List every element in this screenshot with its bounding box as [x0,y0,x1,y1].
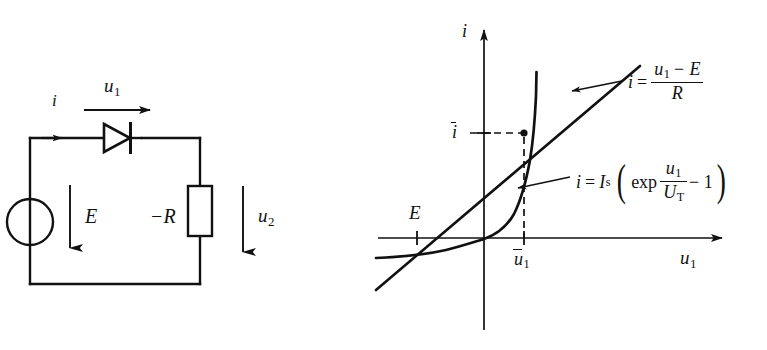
label-voltage-u2-sub: 2 [268,214,275,229]
label-resistor-minus-R: −R [150,206,176,226]
label-operating-point-u1bar: u1 [514,250,530,271]
label-operating-point-ibar-base: i [452,123,457,141]
label-operating-point-u1bar-base: u [514,250,523,268]
equation-diode-close-paren: ) [717,159,726,203]
equation-load-line: i = u1− E R [628,61,703,103]
label-axis-i: i [462,22,467,40]
resistor-symbol [188,186,212,236]
equation-load-line-eq: = [633,73,651,91]
equation-load-line-denominator: R [651,83,703,102]
equation-diode-num-sub: 1 [675,166,682,180]
equation-diode-denominator: UT [660,182,687,204]
label-operating-point-ibar: i [452,123,457,141]
label-operating-point-u1bar-sub: 1 [523,257,530,271]
label-axis-u1: u1 [680,248,696,271]
equation-load-line-num-rest: − E [670,59,701,79]
equation-load-line-num-sub: 1 [663,67,670,81]
equation-diode-eq: = [581,173,599,191]
equation-diode-open-paren: ( [614,159,626,203]
equation-diode-num-base: u [666,158,675,178]
label-voltage-u1: u1 [104,76,120,99]
equation-diode-numerator: u1 [660,159,687,182]
voltage-source-symbol [7,199,53,245]
label-axis-u1-base: u [680,247,690,268]
equation-diode-minus-one: − 1 [687,173,714,191]
label-voltage-u1-base: u [104,75,114,96]
equation-diode: i = Is ( exp u1 UT − 1 ) [576,160,728,204]
label-voltage-u2-base: u [258,205,268,226]
diode-triangle [104,124,130,152]
label-x-intercept-E: E [409,203,421,222]
equation-load-line-fraction: u1− E R [651,60,703,102]
equation-diode-exp-text: exp [630,173,660,191]
label-source-E: E [85,206,97,226]
equation-diode-den-base: U [663,182,676,202]
label-axis-u1-sub: 1 [690,256,697,271]
equation-load-line-numerator: u1− E [651,60,703,83]
circuit-diagram [7,110,243,284]
resistor-box [188,186,212,236]
label-voltage-u1-sub: 1 [114,84,121,99]
operating-point-marker [520,129,527,136]
equation-load-line-num-base: u [654,59,663,79]
equation-diode-fraction: u1 UT [660,159,687,203]
label-current-i: i [52,92,57,109]
equation-diode-den-sub: T [676,190,684,204]
diode-symbol [104,122,142,154]
label-voltage-u2: u2 [258,206,274,229]
figure-canvas: i u1 E −R u2 i u1 i u1 E i = u1− E R i =… [0,0,767,350]
equation-diode-prefactor-sub: s [605,176,610,188]
diode-characteristic-curve [376,72,537,258]
